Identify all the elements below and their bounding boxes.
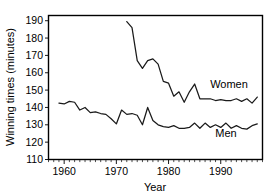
x-tick-label: 1980	[157, 165, 181, 177]
y-tick-label: 170	[25, 49, 43, 61]
y-axis-tick-labels: 110120130140150160170180190	[25, 14, 43, 165]
y-tick-label: 190	[25, 14, 43, 26]
x-axis-tick-labels: 1960197019801990	[52, 165, 232, 177]
y-tick-label: 140	[25, 101, 43, 113]
series-line-men	[59, 101, 257, 129]
y-tick-label: 180	[25, 32, 43, 44]
y-tick-label: 120	[25, 136, 43, 148]
y-tick-label: 110	[26, 153, 43, 165]
series-label-men: Men	[215, 127, 236, 139]
series-line-women	[127, 22, 257, 104]
y-axis-title: Winning times (minutes)	[4, 28, 16, 146]
winning-times-line-chart: 110120130140150160170180190 196019701980…	[0, 0, 277, 196]
x-tick-label: 1970	[105, 165, 129, 177]
y-tick-label: 160	[25, 66, 43, 78]
data-series-lines	[59, 22, 257, 130]
x-tick-label: 1960	[52, 165, 76, 177]
y-tick-label: 150	[25, 84, 43, 96]
series-inline-labels: WomenMen	[210, 78, 248, 139]
x-tick-label: 1990	[209, 165, 233, 177]
series-label-women: Women	[210, 78, 248, 90]
x-axis-title: Year	[144, 181, 167, 193]
chart-figure: 110120130140150160170180190 196019701980…	[0, 0, 277, 196]
y-tick-label: 130	[25, 118, 43, 130]
